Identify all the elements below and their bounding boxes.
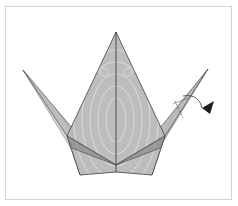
left-wing (23, 70, 80, 175)
arrowhead-icon (202, 101, 214, 114)
right-wing (152, 69, 208, 175)
origami-crane-diagram (0, 0, 238, 206)
